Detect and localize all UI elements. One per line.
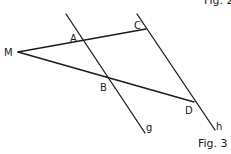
label-point-M: M	[4, 47, 13, 58]
label-point-B: B	[100, 82, 107, 93]
segment-MC	[18, 29, 146, 52]
label-line-g: g	[146, 122, 152, 133]
label-point-A: A	[70, 33, 77, 44]
line-h	[137, 14, 215, 130]
label-point-C: C	[134, 20, 141, 31]
caption-fig-3: Fig. 3	[198, 137, 228, 150]
label-point-D: D	[185, 105, 193, 116]
label-line-h: h	[216, 121, 222, 132]
geometry-diagram: Fig. 2 M A C B D g h Fig. 3	[0, 0, 231, 154]
caption-fig-2-partial: Fig. 2	[204, 0, 231, 7]
